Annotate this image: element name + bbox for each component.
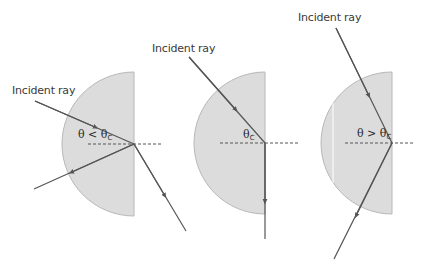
panel-above-critical bbox=[321, 28, 415, 259]
theta-symbol: θ bbox=[357, 127, 364, 140]
relation-symbol: > bbox=[364, 127, 380, 140]
incident-ray-label: Incident ray bbox=[12, 84, 75, 97]
relation-symbol: < bbox=[85, 128, 101, 141]
critical-subscript: C bbox=[107, 134, 112, 142]
angle-label: θ < θC bbox=[78, 128, 112, 142]
panel-at-critical bbox=[189, 57, 300, 239]
angle-label: θC bbox=[243, 128, 255, 142]
theta-symbol: θ bbox=[78, 128, 85, 141]
angle-label: θ > θC bbox=[357, 127, 391, 141]
refracted-ray-arrow bbox=[134, 144, 165, 196]
critical-subscript: C bbox=[386, 133, 391, 141]
critical-subscript: C bbox=[250, 134, 255, 142]
semicircle-block bbox=[194, 72, 265, 214]
incident-ray-label: Incident ray bbox=[152, 42, 215, 55]
incident-ray-label: Incident ray bbox=[298, 11, 361, 24]
theta-c-symbol: θ bbox=[243, 128, 250, 141]
